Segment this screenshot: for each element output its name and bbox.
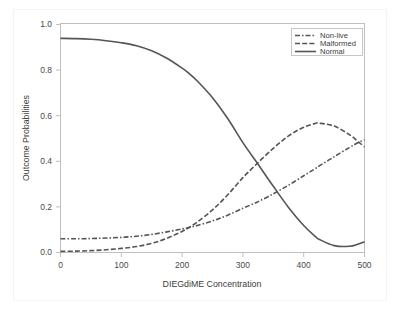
x-tick-label: 500 — [357, 260, 371, 270]
x-tick-label: 400 — [297, 260, 311, 270]
series-line-malformed — [61, 123, 365, 252]
x-axis-tick-labels: 0 100 200 300 400 500 — [58, 260, 372, 270]
y-tick-label: 0.0 — [40, 247, 52, 257]
series-line-normal — [61, 38, 365, 246]
x-tick-label: 300 — [236, 260, 250, 270]
chart-legend[interactable]: Non-live Malformed Normal — [292, 29, 363, 57]
legend-label-normal: Normal — [320, 47, 345, 56]
x-tick-label: 0 — [58, 260, 63, 270]
data-curves — [61, 38, 365, 251]
x-tick-label: 100 — [114, 260, 128, 270]
y-axis-tick-labels: 0.0 0.2 0.4 0.6 0.8 1.0 — [40, 19, 52, 257]
x-axis-title: DIEGdiME Concentration — [163, 279, 262, 289]
y-tick-label: 0.4 — [40, 156, 52, 166]
y-tick-label: 0.2 — [40, 202, 52, 212]
y-axis-ticks — [56, 25, 61, 253]
x-axis-ticks — [61, 253, 365, 258]
y-tick-label: 1.0 — [40, 19, 52, 29]
y-axis-title: Outcome Probabilities — [21, 94, 31, 181]
chart-figure: 0.0 0.2 0.4 0.6 0.8 1.0 0 100 200 300 40… — [0, 0, 402, 312]
plot-frame — [61, 24, 365, 253]
series-line-non-live — [61, 140, 365, 239]
line-chart: 0.0 0.2 0.4 0.6 0.8 1.0 0 100 200 300 40… — [0, 0, 402, 312]
y-tick-label: 0.6 — [40, 111, 52, 121]
y-tick-label: 0.8 — [40, 65, 52, 75]
x-tick-label: 200 — [175, 260, 189, 270]
